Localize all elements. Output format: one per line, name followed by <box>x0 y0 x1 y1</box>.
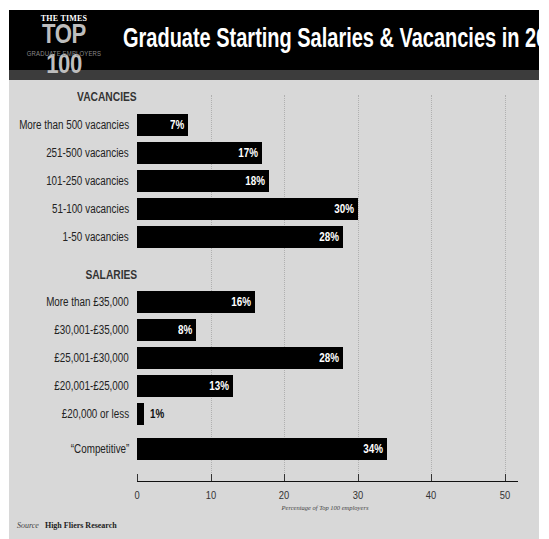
category-label: 51-100 vacancies <box>52 198 129 220</box>
logo-title: TOP 100 <box>27 19 101 79</box>
chart-title: Graduate Starting Salaries & Vacancies i… <box>123 20 549 56</box>
source-value: High Fliers Research <box>45 521 117 530</box>
x-tick <box>284 474 285 481</box>
bar <box>137 198 358 220</box>
bar <box>137 347 343 369</box>
bar <box>137 226 343 248</box>
bar-value-label: 17% <box>238 142 258 164</box>
category-label: £30,001-£35,000 <box>55 319 129 341</box>
bar-value-label: 16% <box>231 291 251 313</box>
category-label: £20,001-£25,000 <box>55 375 129 397</box>
x-axis <box>137 481 518 482</box>
section-heading-salaries: SALARIES <box>85 268 137 282</box>
category-label: More than £35,000 <box>46 291 129 313</box>
source-key: Source <box>17 521 39 530</box>
bar-value-label: 28% <box>319 226 339 248</box>
x-tick-label: 0 <box>124 489 150 501</box>
x-tick-label: 50 <box>492 489 518 501</box>
category-label: 101-250 vacancies <box>46 170 129 192</box>
x-tick-label: 30 <box>345 489 371 501</box>
bar <box>137 438 387 460</box>
bar-value-label: 34% <box>363 438 383 460</box>
x-tick-label: 20 <box>271 489 297 501</box>
x-axis-label: Percentage of Top 100 employers <box>250 504 400 511</box>
category-label: “Competitive” <box>70 438 129 460</box>
gridline <box>358 95 359 481</box>
category-label: £25,001-£30,000 <box>55 347 129 369</box>
bar-value-label: 1% <box>150 403 164 425</box>
category-label: 1-50 vacancies <box>63 226 129 248</box>
gridline <box>431 95 432 481</box>
x-tick-label: 40 <box>418 489 444 501</box>
bar-value-label: 18% <box>245 170 265 192</box>
x-tick <box>505 474 506 481</box>
x-tick <box>211 474 212 481</box>
gridline <box>284 95 285 481</box>
bar-value-label: 7% <box>170 114 184 136</box>
source-note: Source High Fliers Research <box>17 521 117 530</box>
bar-value-label: 30% <box>334 198 354 220</box>
x-tick <box>431 474 432 481</box>
logo-subtitle: GRADUATE EMPLOYERS <box>26 50 103 57</box>
x-tick-label: 10 <box>198 489 224 501</box>
bar <box>137 403 144 425</box>
gridline <box>505 95 506 481</box>
section-heading-vacancies: VACANCIES <box>77 90 137 104</box>
x-tick <box>358 474 359 481</box>
category-label: £20,000 or less <box>62 403 129 425</box>
bar-value-label: 28% <box>319 347 339 369</box>
bar-value-label: 13% <box>209 375 229 397</box>
category-label: More than 500 vacancies <box>19 114 129 136</box>
x-tick <box>137 474 138 481</box>
category-label: 251-500 vacancies <box>46 142 129 164</box>
bar-value-label: 8% <box>178 319 192 341</box>
